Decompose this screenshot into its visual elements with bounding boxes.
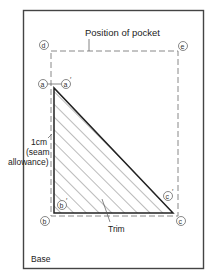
svg-text:a: a: [64, 81, 68, 88]
svg-text:c: c: [179, 218, 183, 225]
seam-allowance-label-line2: (seam: [26, 147, 50, 157]
point-a: a: [39, 80, 48, 89]
point-b: b: [41, 217, 50, 226]
point-c-prime: c ′: [164, 188, 175, 201]
svg-text:e: e: [181, 43, 185, 50]
svg-text:d: d: [42, 42, 46, 49]
pocket-position-label: Position of pocket: [85, 27, 160, 38]
svg-text:b: b: [43, 218, 47, 225]
seam-allowance-label-line3: allowance): [8, 157, 49, 167]
base-label: Base: [31, 254, 51, 264]
point-a-prime: a ′: [62, 76, 73, 89]
svg-text:a: a: [41, 81, 45, 88]
pocket-triangle: [54, 88, 173, 213]
svg-text:c: c: [166, 193, 170, 200]
point-c: c: [177, 217, 186, 226]
svg-text:b: b: [60, 202, 64, 209]
seam-allowance-label-line1: 1cm: [31, 137, 47, 147]
svg-text:′: ′: [172, 188, 174, 195]
svg-text:′: ′: [70, 76, 72, 83]
pocket-position-diagram: Position of pocket 1cm (seam allowance) …: [0, 0, 206, 272]
point-d: d: [40, 41, 49, 50]
point-e: e: [179, 42, 188, 51]
trim-label: Trim: [108, 224, 125, 234]
